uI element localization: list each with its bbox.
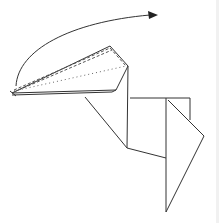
fold-arrow-icon <box>16 11 158 86</box>
diagram-canvas <box>0 0 219 223</box>
scrollbar[interactable] <box>216 0 219 223</box>
paper-body <box>85 66 204 212</box>
pleat-flap <box>10 46 128 96</box>
origami-diagram <box>0 0 219 223</box>
